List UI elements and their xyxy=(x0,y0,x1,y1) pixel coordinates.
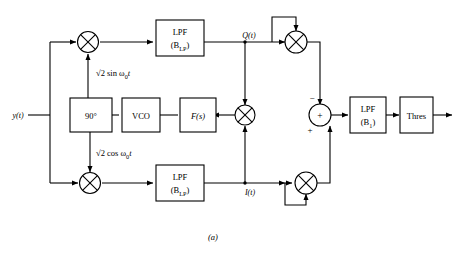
block-lpf-out-param: (B1) xyxy=(361,117,376,129)
mult-center xyxy=(235,105,255,125)
mult-bottom xyxy=(80,173,101,194)
label-i-of-t: I(t) xyxy=(244,188,256,197)
squarer-q xyxy=(285,31,307,53)
squarer-i xyxy=(295,172,317,194)
summer-inner-plus: + xyxy=(317,111,322,121)
mult-top xyxy=(78,32,99,53)
summing-junction: + xyxy=(309,104,331,126)
summer-plus-sign: + xyxy=(307,125,312,135)
block-lpf-out-label: LPF xyxy=(361,104,376,114)
summer-minus-sign: − xyxy=(309,93,314,103)
block-lpf-top-label: LPF xyxy=(173,27,188,37)
label-input-y: y(t) xyxy=(11,111,23,120)
junction-dot-q xyxy=(243,40,246,43)
block-loop-filter-label: F(s) xyxy=(190,111,205,121)
block-lpf-bottom-label: LPF xyxy=(173,172,188,182)
block-lpf-out xyxy=(350,97,386,133)
label-carrier-sin: √2 sin ω0t xyxy=(96,68,131,80)
figure-block-diagram: + − + LPF (BLP) LPF (BLP) LPF (B1) Thres… xyxy=(0,0,456,254)
block-vco-label: VCO xyxy=(132,111,150,121)
label-q-of-t: Q(t) xyxy=(242,31,256,40)
figure-caption: (a) xyxy=(208,232,218,242)
block-phase-shift-label: 90° xyxy=(85,111,97,121)
label-carrier-cos: √2 cos ω0t xyxy=(96,148,132,160)
wire-isq-to-summer xyxy=(317,126,330,183)
junction-dot-i xyxy=(243,181,246,184)
block-thres-label: Thres xyxy=(407,111,426,121)
